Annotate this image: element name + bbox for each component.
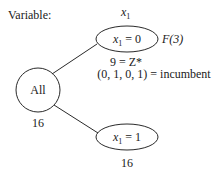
root-node-label: All [30,84,45,96]
variable-header: x1 [121,6,130,21]
top-node-incumbent: (0, 1, 0, 1) = incumbent [97,68,210,80]
bottom-node-bound: 16 [121,157,133,169]
top-node-status: F(3) [162,33,183,45]
root-node-bound: 16 [32,117,44,129]
variable-subscript: 1 [126,12,130,21]
top-node-label: x1 = 0 [113,33,141,48]
bottom-node-label: x1 = 1 [113,131,141,146]
edge-root-to-top [52,44,97,74]
bottom-node-relation: = 1 [122,130,141,144]
top-node-relation: = 0 [122,32,141,46]
variable-label: Variable: [8,9,51,21]
edge-root-to-bottom [54,105,98,133]
